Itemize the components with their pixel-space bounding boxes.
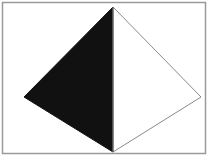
diagram-figure: [0, 0, 209, 164]
figure-caption: [0, 157, 209, 164]
